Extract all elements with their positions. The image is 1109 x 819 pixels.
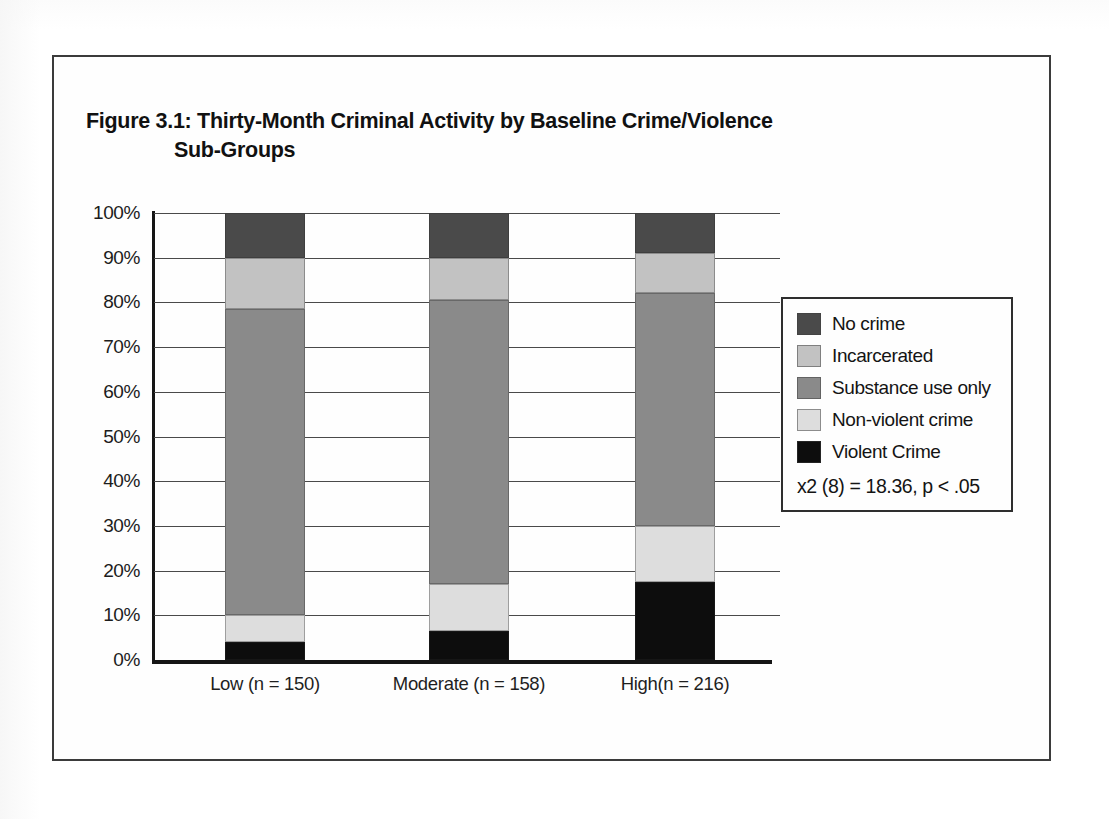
y-axis-tick-label: 70% [103, 336, 140, 358]
x-axis-category-label: Moderate (n = 158) [393, 673, 545, 695]
bar-segment[interactable] [225, 258, 305, 309]
legend-item-label: Incarcerated [832, 345, 933, 367]
y-axis-tick-label: 60% [103, 381, 140, 403]
figure-title-line-2: Sub-Groups [86, 136, 786, 164]
bar-segment[interactable] [635, 526, 715, 582]
legend-item-label: Substance use only [832, 377, 991, 399]
figure-title: Figure 3.1: Thirty-Month Criminal Activi… [86, 79, 786, 193]
legend-items-group: No crimeIncarceratedSubstance use onlyNo… [797, 313, 997, 463]
legend-item-label: Non-violent crime [832, 409, 973, 431]
bar-segment[interactable] [225, 615, 305, 642]
y-axis-tick-label: 90% [103, 247, 140, 269]
chart-plot-area: 100%90%80%70%60%50%40%30%20%10%0% Low (n… [152, 211, 770, 663]
figure-title-line-1: Figure 3.1: Thirty-Month Criminal Activi… [86, 109, 773, 133]
figure-frame: Figure 3.1: Thirty-Month Criminal Activi… [52, 55, 1051, 761]
chart-legend: No crimeIncarceratedSubstance use onlyNo… [781, 297, 1013, 512]
bar-segment[interactable] [429, 631, 509, 660]
bar-segment[interactable] [635, 253, 715, 293]
legend-swatch-incarcerated [797, 345, 821, 367]
bar-segment[interactable] [429, 300, 509, 584]
bar-segment[interactable] [429, 258, 509, 300]
x-axis-line [152, 660, 772, 664]
legend-item[interactable]: Violent Crime [797, 441, 997, 463]
y-axis-tick-label: 100% [93, 202, 140, 224]
legend-swatch-non-violent-crime [797, 409, 821, 431]
scanned-page: Figure 3.1: Thirty-Month Criminal Activi… [0, 0, 1109, 819]
legend-item[interactable]: No crime [797, 313, 997, 335]
bar-segment[interactable] [635, 293, 715, 525]
bar-segment[interactable] [635, 582, 715, 660]
y-axis-tick-label: 80% [103, 291, 140, 313]
y-axis-tick-label: 0% [113, 649, 140, 671]
legend-item[interactable]: Substance use only [797, 377, 997, 399]
legend-item[interactable]: Incarcerated [797, 345, 997, 367]
y-axis-tick-label: 40% [103, 470, 140, 492]
bar-segment[interactable] [429, 584, 509, 631]
bar-segment[interactable] [429, 213, 509, 258]
y-axis-tick-label: 20% [103, 560, 140, 582]
legend-swatch-no-crime [797, 313, 821, 335]
x-axis-category-label: Low (n = 150) [210, 673, 320, 695]
legend-swatch-violent-crime [797, 441, 821, 463]
y-axis-tick-label: 50% [103, 426, 140, 448]
legend-statistic: x2 (8) = 18.36, p < .05 [797, 471, 997, 498]
bar-segment[interactable] [225, 309, 305, 615]
bar-segment[interactable] [225, 642, 305, 660]
legend-item-label: Violent Crime [832, 441, 941, 463]
x-axis-category-label: High(n = 216) [621, 673, 730, 695]
stacked-bar[interactable] [429, 213, 509, 660]
y-axis-tick-label: 30% [103, 515, 140, 537]
y-axis-tick-label: 10% [103, 604, 140, 626]
legend-swatch-substance-use-only [797, 377, 821, 399]
bar-segment[interactable] [225, 213, 305, 258]
legend-item[interactable]: Non-violent crime [797, 409, 997, 431]
legend-item-label: No crime [832, 313, 905, 335]
bar-segment[interactable] [635, 213, 715, 253]
stacked-bar[interactable] [225, 213, 305, 660]
stacked-bar[interactable] [635, 213, 715, 660]
